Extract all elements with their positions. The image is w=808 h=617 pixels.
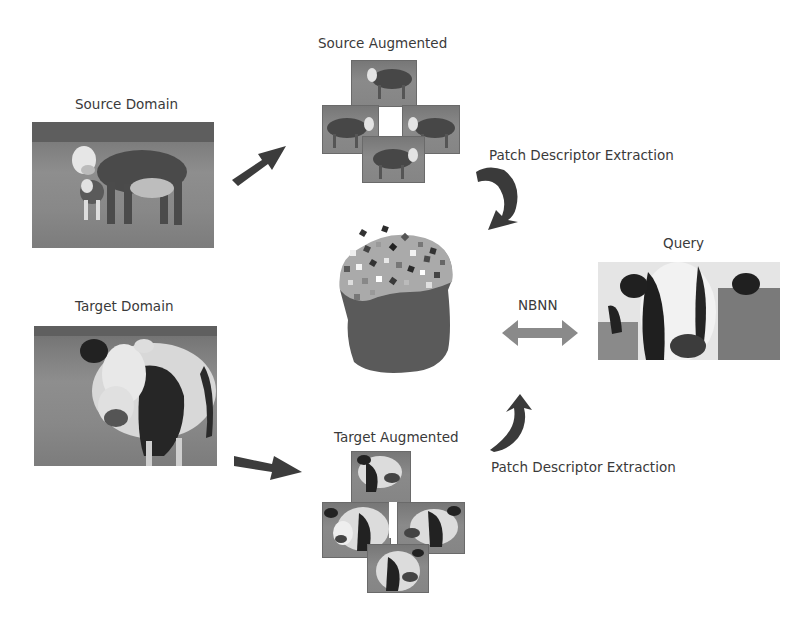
target-domain-label: Target Domain bbox=[75, 298, 173, 314]
arrow-source-to-augmented bbox=[228, 142, 290, 188]
query-image bbox=[598, 262, 780, 360]
target-aug-tile-top bbox=[351, 451, 411, 503]
curved-arrow-top bbox=[474, 164, 522, 232]
source-domain-label: Source Domain bbox=[75, 96, 178, 112]
source-aug-tile-top bbox=[351, 60, 417, 107]
arrow-target-to-augmented bbox=[232, 452, 304, 482]
source-aug-tile-bottom bbox=[362, 136, 425, 183]
descriptor-pool bbox=[330, 220, 460, 380]
patch-extraction-label-top: Patch Descriptor Extraction bbox=[489, 147, 674, 163]
nbnn-double-arrow bbox=[500, 318, 580, 348]
curved-arrow-bottom bbox=[488, 394, 534, 454]
query-label: Query bbox=[663, 235, 704, 251]
patch-extraction-label-bottom: Patch Descriptor Extraction bbox=[491, 459, 676, 475]
nbnn-label: NBNN bbox=[518, 297, 558, 313]
source-augmented-label: Source Augmented bbox=[318, 35, 447, 51]
target-augmented-cross bbox=[322, 451, 460, 591]
source-domain-image bbox=[32, 122, 214, 248]
target-augmented-label: Target Augmented bbox=[334, 429, 459, 445]
target-domain-image bbox=[34, 326, 217, 466]
target-aug-tile-bottom bbox=[367, 544, 429, 593]
source-augmented-cross bbox=[322, 60, 440, 182]
target-aug-gap bbox=[389, 502, 397, 538]
